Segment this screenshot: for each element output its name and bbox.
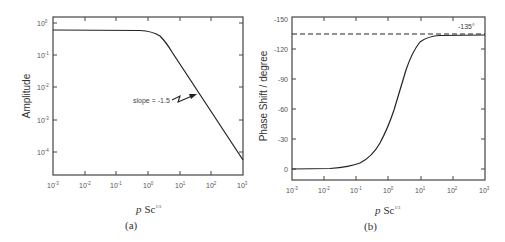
- svg-text:-90: -90: [278, 76, 288, 83]
- x-tick-labels-b: 10-3 10-2 10-1 100 101 102 103: [286, 186, 490, 194]
- y-ticks-b: [292, 49, 485, 169]
- svg-text:102: 102: [206, 181, 217, 189]
- svg-text:10-3: 10-3: [286, 186, 298, 194]
- phase-shift-curve: [292, 35, 485, 169]
- y-ticks-a: [53, 23, 243, 152]
- svg-text:10-1: 10-1: [37, 51, 49, 59]
- plot-frame-b: [292, 17, 485, 180]
- svg-text:10-2: 10-2: [37, 83, 49, 91]
- svg-text:100: 100: [37, 19, 48, 27]
- x-axis-title-b: pSc1/3: [374, 204, 401, 216]
- svg-text:100: 100: [143, 181, 154, 189]
- svg-text:100: 100: [383, 186, 394, 194]
- slope-arrow-icon: [172, 94, 197, 102]
- y-tick-labels-a: 100 10-1 10-2 10-3 10-4: [37, 19, 49, 156]
- svg-text:-30: -30: [278, 136, 288, 143]
- x-ticks-b: [324, 17, 453, 180]
- slope-annotation: slope = -1.5: [133, 97, 170, 105]
- svg-text:10-4: 10-4: [37, 148, 49, 156]
- svg-text:101: 101: [415, 186, 426, 194]
- amplitude-chart: 10-3 10-2 10-1 100 101 102 103 100 10-1 …: [21, 17, 248, 232]
- svg-text:103: 103: [237, 181, 248, 189]
- svg-text:102: 102: [447, 186, 458, 194]
- svg-text:103: 103: [479, 186, 490, 194]
- y-axis-title-a: Amplitude: [21, 73, 32, 118]
- svg-text:-60: -60: [278, 106, 288, 113]
- panel-label-a: (a): [125, 219, 138, 232]
- svg-text:10-2: 10-2: [79, 181, 91, 189]
- svg-text:10-3: 10-3: [47, 181, 59, 189]
- phase-shift-chart: 10-3 10-2 10-1 100 101 102 103 -150 -120…: [258, 16, 490, 233]
- svg-text:10-3: 10-3: [37, 116, 49, 124]
- svg-text:10-2: 10-2: [318, 186, 330, 194]
- panel-label-b: (b): [364, 220, 377, 233]
- svg-text:-120: -120: [274, 46, 288, 53]
- x-tick-labels-a: 10-3 10-2 10-1 100 101 102 103: [47, 181, 248, 189]
- figure: 10-3 10-2 10-1 100 101 102 103 100 10-1 …: [0, 0, 505, 242]
- asymptote-label: -135°: [458, 23, 475, 30]
- y-tick-labels-b: -150 -120 -90 -60 -30 0: [274, 16, 288, 173]
- y-axis-title-b: Phase Shift / degree: [258, 50, 269, 141]
- svg-text:0: 0: [284, 166, 288, 173]
- svg-text:101: 101: [175, 181, 186, 189]
- svg-text:-150: -150: [274, 16, 288, 23]
- svg-text:10-1: 10-1: [110, 181, 122, 189]
- svg-text:10-1: 10-1: [350, 186, 362, 194]
- plot-frame-a: [53, 17, 243, 175]
- x-axis-title-a: pSc1/3: [135, 203, 162, 215]
- amplitude-curve: [53, 30, 243, 160]
